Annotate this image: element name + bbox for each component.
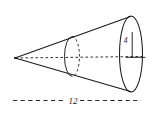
cone-diagram-figure: 4 12 bbox=[0, 0, 154, 115]
cone-cross-section-ellipse-hidden-arc bbox=[72, 37, 80, 77]
cone-diagram-canvas: 4 12 bbox=[0, 0, 154, 115]
cone-apex bbox=[14, 57, 16, 59]
cone-axis-dashed-line bbox=[16, 57, 143, 59]
cone-upper-slant-line bbox=[15, 17, 131, 59]
radius-label: 4 bbox=[124, 36, 128, 45]
cone-lower-slant-line bbox=[15, 58, 131, 92]
cone-cross-section-ellipse-visible-arc bbox=[65, 37, 73, 77]
length-label: 12 bbox=[69, 96, 79, 106]
cone-base-ellipse bbox=[120, 16, 143, 92]
